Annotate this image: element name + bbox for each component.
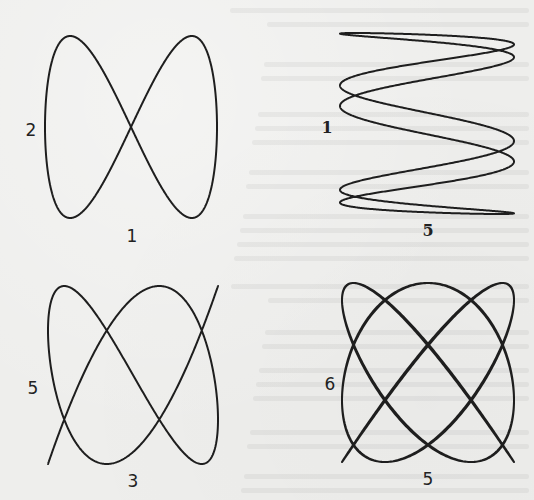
panel-2-vertical-frequency-label: 1	[321, 120, 332, 136]
lissajous-curve-1-2	[45, 36, 217, 218]
panel-2-horizontal-frequency-label: 5	[422, 223, 433, 239]
panel-3-horizontal-frequency-label: 3	[128, 473, 139, 490]
lissajous-curve-5-6	[342, 283, 514, 462]
panel-1-horizontal-frequency-label: 1	[127, 228, 138, 245]
panel-4-horizontal-frequency-label: 5	[423, 471, 434, 488]
scanned-page: 2 1 1 5 5 3 6 5	[0, 0, 534, 500]
panel-3-vertical-frequency-label: 5	[28, 380, 39, 397]
panel-1-vertical-frequency-label: 2	[26, 122, 37, 139]
panel-4-vertical-frequency-label: 6	[325, 376, 336, 393]
lissajous-curve-3-5	[48, 286, 218, 464]
lissajous-curve-5-1	[340, 33, 514, 214]
lissajous-figure	[0, 0, 534, 500]
